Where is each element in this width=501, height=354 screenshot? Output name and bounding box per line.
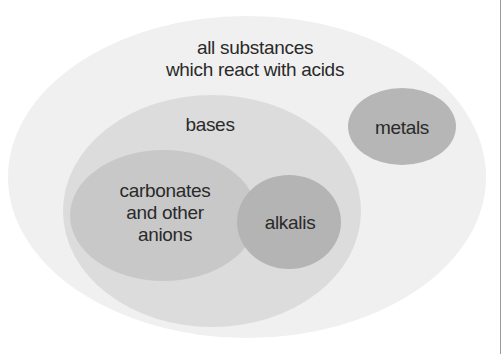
label-alkalis: alkalis [250, 212, 330, 234]
label-all-substances: all substances which react with acids [130, 37, 380, 81]
label-metals: metals [360, 117, 444, 139]
label-carbonates: carbonates and other anions [100, 180, 230, 246]
label-bases: bases [160, 114, 260, 136]
